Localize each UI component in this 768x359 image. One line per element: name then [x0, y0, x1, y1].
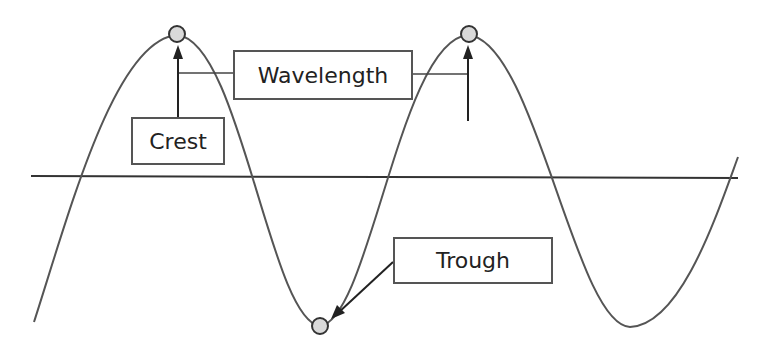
- crest-label: Crest: [149, 129, 207, 154]
- equilibrium-line: [31, 176, 738, 178]
- wavelength-label-box: Wavelength: [233, 50, 413, 100]
- wave-diagram: Wavelength Crest Trough: [0, 0, 768, 359]
- crest-arrow-head-icon: [173, 45, 183, 59]
- crest-marker-1: [169, 26, 185, 42]
- wavelength-label: Wavelength: [258, 63, 389, 88]
- trough-arrow-line: [338, 262, 393, 313]
- trough-label: Trough: [436, 248, 510, 273]
- crest-2-arrow-head-icon: [463, 45, 473, 59]
- trough-marker: [312, 318, 328, 334]
- crest-label-box: Crest: [131, 117, 225, 165]
- crest-marker-2: [461, 26, 477, 42]
- trough-label-box: Trough: [393, 237, 553, 284]
